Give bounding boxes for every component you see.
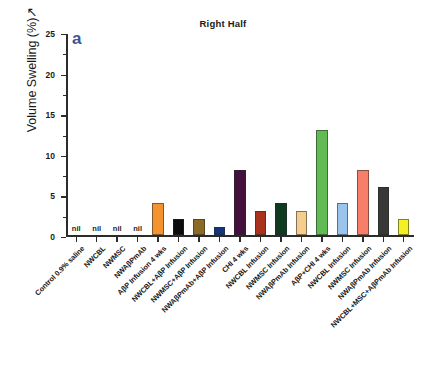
- x-tick-12: [321, 237, 322, 242]
- y-tick-20: 20: [61, 75, 66, 76]
- y-axis-line: [66, 34, 68, 237]
- x-tick-9: [260, 237, 261, 242]
- y-tick-label-5: 5: [50, 191, 55, 201]
- bar: [296, 211, 307, 235]
- bar: [214, 227, 225, 235]
- bar: [193, 219, 204, 235]
- y-tick-10: 10: [61, 156, 66, 157]
- y-tick-label-0: 0: [50, 232, 55, 242]
- bar: [337, 203, 348, 235]
- y-tick-minor: [63, 95, 66, 96]
- x-tick-7: [219, 237, 220, 242]
- y-tick-label-15: 15: [46, 110, 55, 120]
- x-axis-label: NWAβPmAb Infusion: [254, 244, 311, 301]
- x-axis-label: AβP+CHI 4 wks: [289, 244, 333, 288]
- x-axis-label: NWMSC: [101, 244, 127, 270]
- bar: [173, 219, 184, 235]
- x-axis-label: NWCBL+MSC+AβPmAb Infusion: [329, 244, 414, 329]
- x-axis-label: NWCBL Infusion: [224, 244, 270, 290]
- y-tick-label-20: 20: [46, 70, 55, 80]
- x-axis-label: NWAβPmAb Infusion: [336, 244, 393, 301]
- x-tick-13: [342, 237, 343, 242]
- y-axis-title-text: Volume Swelling (%): [25, 18, 39, 133]
- x-axis-label: NWAβPmAb+AβP Infusion: [159, 244, 229, 314]
- x-axis-label: NWCBL+AβP Infusion: [129, 244, 189, 304]
- x-tick-4: [157, 237, 158, 242]
- x-axis-label: CHI 4 wks: [220, 244, 250, 274]
- x-tick-15: [383, 237, 384, 242]
- bar: [152, 203, 163, 235]
- x-tick-5: [178, 237, 179, 242]
- x-tick-1: [96, 237, 97, 242]
- bar: [398, 219, 409, 235]
- x-axis-label: NWCBL Infusion: [306, 244, 352, 290]
- chart-title: Right Half: [0, 18, 446, 29]
- nil-label: nil: [72, 224, 81, 233]
- x-axis-label: NWAβPmAb: [112, 244, 148, 280]
- x-tick-14: [362, 237, 363, 242]
- x-tick-8: [239, 237, 240, 242]
- bar: [357, 170, 368, 235]
- x-tick-16: [403, 237, 404, 242]
- y-tick-label-25: 25: [46, 29, 55, 39]
- x-axis-label: NWCBL: [82, 244, 107, 269]
- y-axis-title: Volume Swelling (%)↗: [24, 0, 39, 165]
- x-axis-label: Control 0.9% saline: [33, 244, 86, 297]
- y-tick-minor: [63, 217, 66, 218]
- x-tick-6: [198, 237, 199, 242]
- x-tick-0: [76, 237, 77, 242]
- x-tick-3: [137, 237, 138, 242]
- y-tick-25: 25: [61, 34, 66, 35]
- plot-area: 0510152025 nilnilnilnil: [66, 34, 414, 237]
- y-tick-5: 5: [61, 196, 66, 197]
- bar: [275, 203, 286, 235]
- y-tick-15: 15: [61, 115, 66, 116]
- bar: [316, 130, 327, 236]
- x-tick-2: [116, 237, 117, 242]
- bar: [378, 187, 389, 236]
- y-axis-arrow-icon: ↗: [24, 7, 39, 18]
- bar-chart-figure: Right Half a Volume Swelling (%)↗ 051015…: [0, 0, 446, 374]
- x-axis-label: NWMSC Infusion: [244, 244, 291, 291]
- x-tick-10: [280, 237, 281, 242]
- x-axis-label: NWMSC+AβP Infusion: [149, 244, 210, 305]
- nil-label: nil: [113, 224, 122, 233]
- bar: [255, 211, 266, 235]
- y-tick-minor: [63, 136, 66, 137]
- nil-label: nil: [92, 224, 101, 233]
- bar: [234, 170, 245, 235]
- y-tick-0: 0: [61, 237, 66, 238]
- x-axis-label: AβP Infusion 4 wks: [116, 244, 169, 297]
- x-tick-11: [301, 237, 302, 242]
- y-tick-minor: [63, 54, 66, 55]
- y-tick-label-10: 10: [46, 151, 55, 161]
- nil-label: nil: [133, 224, 142, 233]
- y-tick-minor: [63, 176, 66, 177]
- x-axis-label: NWMSC Infusion: [326, 244, 373, 291]
